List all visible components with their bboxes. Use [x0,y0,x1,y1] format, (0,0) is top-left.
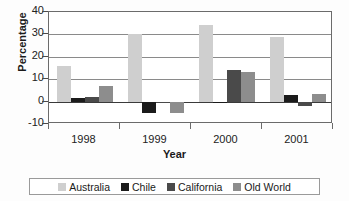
legend-label: Chile [132,181,156,193]
bar-australia-1999 [128,34,142,101]
gridline [49,57,331,58]
bar-california-2000 [227,70,241,101]
bar-chart: Percentage 403020100-10 1998199920002001… [0,0,349,201]
legend-swatch-icon [167,183,175,191]
legend-label: California [178,181,222,193]
legend-label: Old World [244,181,291,193]
bar-chile-2001 [284,95,298,102]
legend-label: Australia [69,181,110,193]
bar-australia-2001 [270,37,284,102]
y-tick-label: 20 [18,50,44,61]
y-axis-tick-labels: 403020100-10 [16,0,44,201]
gridline [49,34,331,35]
bar-old-world-2000 [241,72,255,101]
x-axis-title: Year [0,148,349,160]
y-tick-label: 10 [18,72,44,83]
y-tick-label: -10 [18,117,44,128]
bar-california-1999 [156,102,170,103]
legend-item-california[interactable]: California [167,181,222,193]
legend-swatch-icon [233,183,241,191]
gridline [49,79,331,80]
x-tickmark [261,123,262,129]
zero-baseline [49,102,331,103]
x-tick-label: 2000 [190,133,261,145]
legend-item-old-world[interactable]: Old World [233,181,291,193]
x-tick-label: 1999 [119,133,190,145]
bar-chile-1998 [71,98,85,101]
bar-chile-2000 [213,102,227,103]
y-tick-label: 30 [18,27,44,38]
x-tickmark [119,123,120,129]
x-tickmark [332,123,333,129]
bar-california-1998 [85,97,99,101]
legend-item-chile[interactable]: Chile [121,181,156,193]
bar-old-world-1999 [170,102,184,113]
bar-old-world-1998 [99,86,113,102]
legend-swatch-icon [58,183,66,191]
bar-australia-2000 [199,25,213,101]
y-tick-label: 40 [18,5,44,16]
bar-california-2001 [298,102,312,106]
y-tick-label: 0 [18,95,44,106]
bar-old-world-2001 [312,94,326,102]
x-tickmark [190,123,191,129]
plot-area [48,11,332,123]
bar-australia-1998 [57,66,71,102]
x-tick-label: 2001 [261,133,332,145]
x-tick-label: 1998 [48,133,119,145]
chart-legend: AustraliaChileCaliforniaOld World [29,178,320,195]
bar-chile-1999 [142,102,156,113]
legend-item-australia[interactable]: Australia [58,181,110,193]
legend-swatch-icon [121,183,129,191]
x-tickmark [48,123,49,129]
